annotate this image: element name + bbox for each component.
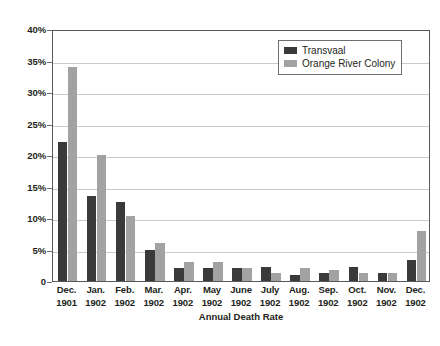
x-tick-label-line1: Nov. <box>377 284 396 295</box>
bar <box>203 268 213 281</box>
x-tick-label-line1: Apr. <box>174 284 192 295</box>
x-tick-label-line2: 1902 <box>314 297 343 310</box>
bar-group <box>82 31 111 281</box>
x-tick-label: Feb.1902 <box>110 284 139 309</box>
bar <box>126 216 136 281</box>
x-tick-label-line1: Jan. <box>86 284 104 295</box>
bar <box>349 267 359 281</box>
bar <box>97 155 107 281</box>
y-tick-label: 20% <box>2 151 46 161</box>
x-tick-label: June1902 <box>226 284 255 309</box>
bar <box>174 268 184 281</box>
x-tick-label-line1: Feb. <box>115 284 134 295</box>
bar <box>213 262 223 281</box>
bar <box>388 273 398 281</box>
bar <box>319 273 329 281</box>
x-tick-label: Oct.1902 <box>343 284 372 309</box>
x-tick-label-line2: 1902 <box>197 297 226 310</box>
bar <box>261 267 271 281</box>
bar-group <box>198 31 227 281</box>
bar <box>300 268 310 281</box>
bar <box>378 273 388 281</box>
legend-item-transvaal: Transvaal <box>284 44 395 57</box>
x-tick-label: Mar.1902 <box>139 284 168 309</box>
bar <box>116 202 126 281</box>
bar <box>271 273 281 281</box>
y-tick-label: 30% <box>2 88 46 98</box>
y-tick-label: 25% <box>2 120 46 130</box>
x-tick-label-line1: July <box>261 284 279 295</box>
legend-label: Orange River Colony <box>302 57 395 70</box>
y-tick-label: 15% <box>2 183 46 193</box>
bar <box>58 142 68 281</box>
bar <box>417 231 427 281</box>
legend-label: Transvaal <box>302 44 346 57</box>
y-tick-label: 10% <box>2 214 46 224</box>
x-tick-label: July1902 <box>256 284 285 309</box>
chart-legend: Transvaal Orange River Colony <box>278 40 402 75</box>
bar <box>184 262 194 281</box>
x-tick-label-line1: Sep. <box>318 284 337 295</box>
bar-group <box>53 31 82 281</box>
bar <box>232 268 242 281</box>
x-tick-label-line1: May <box>203 284 221 295</box>
x-tick-label: Nov.1902 <box>372 284 401 309</box>
legend-item-orange-river-colony: Orange River Colony <box>284 57 395 70</box>
x-tick-label-line2: 1902 <box>168 297 197 310</box>
x-tick-label-line2: 1901 <box>52 297 81 310</box>
x-tick-label-line1: Oct. <box>348 284 366 295</box>
x-tick-label-line2: 1902 <box>81 297 110 310</box>
bar <box>407 260 417 281</box>
x-tick-label-line2: 1902 <box>139 297 168 310</box>
x-axis-title: Annual Death Rate <box>52 311 430 322</box>
bar-group <box>227 31 256 281</box>
bar <box>359 273 369 281</box>
x-tick-label-line2: 1902 <box>401 297 430 310</box>
x-tick-label-line2: 1902 <box>226 297 255 310</box>
x-tick-label-line1: Dec. <box>406 284 425 295</box>
bar <box>242 268 252 281</box>
y-tick-label: 40% <box>2 25 46 35</box>
bar-group <box>140 31 169 281</box>
y-tick-label: 0 <box>2 277 46 287</box>
x-tick-label: May1902 <box>197 284 226 309</box>
x-tick-label: Dec.1902 <box>401 284 430 309</box>
bar <box>290 275 300 281</box>
bar-group <box>111 31 140 281</box>
x-tick-label: Apr.1902 <box>168 284 197 309</box>
x-tick-label: Dec.1901 <box>52 284 81 309</box>
x-tick-label-line2: 1902 <box>110 297 139 310</box>
bar <box>329 270 339 281</box>
x-tick-label-line1: Dec. <box>57 284 76 295</box>
x-tick-label: Jan.1902 <box>81 284 110 309</box>
legend-swatch-icon <box>284 47 297 54</box>
bar <box>145 250 155 282</box>
y-axis: 05%10%15%20%25%30%35%40% <box>0 0 46 346</box>
x-tick-label: Aug.1902 <box>285 284 314 309</box>
y-tick-label: 5% <box>2 246 46 256</box>
bar <box>68 67 78 281</box>
bar-group <box>169 31 198 281</box>
x-tick-label-line1: Aug. <box>289 284 310 295</box>
y-tick-label: 35% <box>2 57 46 67</box>
bar-group <box>402 31 430 281</box>
x-tick-label-line1: Mar. <box>145 284 163 295</box>
legend-swatch-icon <box>284 60 297 67</box>
bar <box>155 243 165 281</box>
x-tick-label-line2: 1902 <box>256 297 285 310</box>
x-tick-label-line2: 1902 <box>285 297 314 310</box>
bar <box>87 196 97 281</box>
x-tick-label-line1: June <box>230 284 252 295</box>
x-tick-label-line2: 1902 <box>343 297 372 310</box>
x-tick-label-line2: 1902 <box>372 297 401 310</box>
y-tick-mark <box>47 282 52 283</box>
bar-chart: 05%10%15%20%25%30%35%40% Dec.1901Jan.190… <box>0 0 440 346</box>
x-tick-label: Sep.1902 <box>314 284 343 309</box>
